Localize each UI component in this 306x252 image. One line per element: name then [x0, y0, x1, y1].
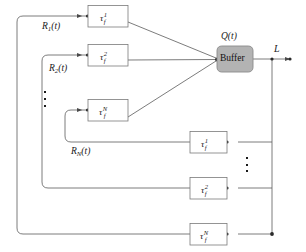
wire-stream3-to-buffer [128, 61, 216, 117]
delay-label-stream-3: τNf [99, 106, 106, 119]
delay-label-stream-1: τ1f [100, 12, 105, 25]
junction-bottom-bus [270, 232, 274, 236]
delay-boxes-right [190, 132, 227, 246]
delay-label-stream-2: τ2f [100, 51, 105, 64]
ellipsis-dot [246, 170, 248, 172]
ellipsis-dot [246, 157, 248, 159]
delay-box-feedback-2 [190, 178, 227, 200]
wire-stream2-to-buffer [128, 60, 216, 61]
delay-box-stream-1 [88, 6, 128, 28]
delay-box-feedback-1 [190, 132, 227, 154]
buffer-state-label: Q(t) [221, 32, 237, 42]
delay-label-feedback-1: τ1f [201, 138, 206, 151]
delay-label-feedback-3: τNf [200, 230, 207, 243]
ellipsis-dot [44, 98, 46, 100]
output-label: L [274, 44, 280, 54]
junction-output-end [288, 57, 291, 60]
delay-label-feedback-2: τ2f [201, 184, 206, 197]
ellipsis-dot [44, 91, 46, 93]
wire-fb2-to-stream2 [42, 55, 190, 188]
wire-stream1-to-buffer [128, 22, 216, 58]
vertical-ellipsis-right [245, 157, 248, 172]
vertical-ellipsis-left [43, 91, 46, 107]
ellipsis-dot [246, 164, 248, 166]
buffer-label: Buffer [220, 54, 245, 64]
delay-boxes-left [88, 6, 128, 122]
ellipsis-dot [44, 105, 46, 107]
junction-output-tap [270, 57, 273, 60]
delay-box-stream-2 [88, 45, 128, 67]
flow-label-stream-2: R2(t) [49, 64, 67, 74]
delay-box-stream-3 [88, 100, 128, 122]
delay-box-feedback-3 [190, 224, 227, 246]
diagram-canvas [0, 0, 306, 252]
flow-label-stream-1: R1(t) [42, 22, 60, 32]
block-diagram: R1(t) R2(t) RN(t) τ1f τ2f τNf τ1f τ2f τN… [0, 0, 306, 252]
flow-label-stream-3: RN(t) [71, 147, 90, 157]
